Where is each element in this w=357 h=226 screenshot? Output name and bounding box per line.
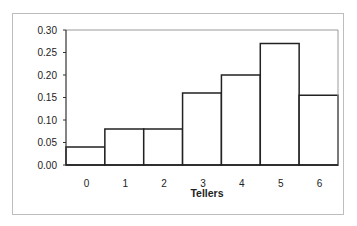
x-tick-label: 1 — [123, 178, 129, 189]
bars — [66, 44, 338, 166]
y-tick-label: 0.20 — [38, 70, 58, 81]
y-axis-ticks: 0.000.050.100.150.200.250.30 — [38, 25, 66, 171]
bar-2 — [144, 129, 183, 165]
bar-5 — [260, 44, 299, 166]
y-tick-label: 0.30 — [38, 25, 58, 36]
x-axis-label: Tellers — [190, 187, 223, 199]
bar-6 — [299, 95, 338, 165]
bar-3 — [183, 93, 222, 165]
y-tick-label: 0.15 — [38, 92, 58, 103]
y-tick-label: 0.10 — [38, 115, 58, 126]
histogram-chart: 0.000.050.100.150.200.250.30 0123456 Tel… — [0, 0, 357, 226]
bar-4 — [221, 75, 260, 165]
x-tick-label: 2 — [161, 178, 167, 189]
x-tick-label: 5 — [278, 178, 284, 189]
x-tick-label: 4 — [239, 178, 245, 189]
y-tick-label: 0.25 — [38, 47, 58, 58]
bar-1 — [105, 129, 144, 165]
x-tick-label: 0 — [84, 178, 90, 189]
y-tick-label: 0.00 — [38, 160, 58, 171]
x-tick-label: 6 — [317, 178, 323, 189]
bar-0 — [66, 147, 105, 165]
y-tick-label: 0.05 — [38, 137, 58, 148]
